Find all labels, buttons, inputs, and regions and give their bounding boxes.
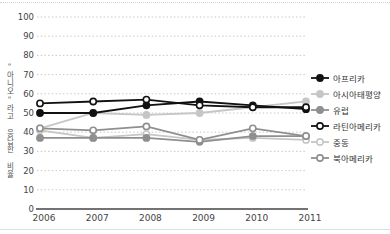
y-tick-label: 50 [23, 108, 34, 118]
data-point-marker [303, 104, 309, 110]
data-point-marker [197, 137, 203, 143]
legend-item: 라틴아메리카 [310, 118, 390, 134]
data-point-marker [143, 123, 149, 129]
data-point-marker [37, 125, 43, 131]
bottom-divider [0, 229, 390, 230]
legend-label: 유럽 [333, 104, 349, 116]
x-tick-label: 2010 [245, 213, 268, 223]
data-point-marker [303, 133, 309, 139]
legend-item: 아시아태평양 [310, 86, 390, 102]
data-point-marker [250, 125, 256, 131]
y-tick-label: 10 [23, 185, 34, 195]
data-point-marker [90, 110, 96, 116]
legend-label: 북아메리카 [333, 152, 373, 164]
data-point-marker [250, 104, 256, 110]
legend-marker-icon [310, 137, 330, 147]
legend-marker-icon [310, 89, 330, 99]
legend-label: 중동 [333, 136, 349, 148]
legend-label: 아프리카 [333, 72, 365, 84]
legend-marker-icon [310, 121, 330, 131]
chart-legend: 아프리카아시아태평양유럽라틴아메리카중동북아메리카 [310, 70, 390, 166]
y-tick-label: 30 [23, 146, 34, 156]
legend-item: 유럽 [310, 102, 390, 118]
y-tick-label: 80 [23, 50, 34, 60]
data-point-marker [143, 135, 149, 141]
y-tick-label: 60 [23, 89, 34, 99]
y-tick-label: 20 [23, 166, 34, 176]
data-point-marker [143, 96, 149, 102]
data-point-marker [250, 133, 256, 139]
legend-item: 북아메리카 [310, 150, 390, 166]
legend-label: 아시아태평양 [333, 88, 381, 100]
data-point-marker [37, 135, 43, 141]
data-point-marker [143, 112, 149, 118]
data-point-marker [90, 127, 96, 133]
legend-label: 라틴아메리카 [333, 120, 381, 132]
data-point-marker [37, 110, 43, 116]
y-tick-label: 100 [18, 12, 34, 22]
x-tick-label: 2008 [139, 213, 162, 223]
data-point-marker [37, 100, 43, 106]
legend-item: 아프리카 [310, 70, 390, 86]
x-tick-label: 2006 [33, 213, 56, 223]
x-tick-label: 2007 [86, 213, 109, 223]
data-point-marker [197, 102, 203, 108]
y-tick-label: 70 [23, 70, 34, 80]
data-point-marker [197, 110, 203, 116]
y-tick-label: 40 [23, 127, 34, 137]
x-tick-label: 2011 [299, 213, 322, 223]
data-point-marker [90, 98, 96, 104]
legend-marker-icon [310, 73, 330, 83]
legend-marker-icon [310, 153, 330, 163]
data-point-marker [90, 135, 96, 141]
legend-item: 중동 [310, 134, 390, 150]
chart-screenshot: "아니오"라고 응답한 비율 0102030405060708090100200… [0, 0, 390, 234]
y-tick-label: 90 [23, 31, 34, 41]
legend-marker-icon [310, 105, 330, 115]
x-tick-label: 2009 [192, 213, 215, 223]
